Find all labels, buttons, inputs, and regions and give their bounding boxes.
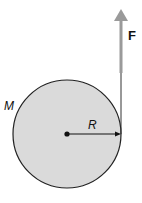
- force-arrow-shaft: [120, 20, 123, 73]
- radius-label: R: [88, 118, 97, 132]
- force-arrowhead-icon: [114, 9, 128, 21]
- mass-label: M: [4, 99, 14, 113]
- force-label: F: [128, 28, 136, 43]
- diagram-canvas: F M R: [0, 0, 142, 203]
